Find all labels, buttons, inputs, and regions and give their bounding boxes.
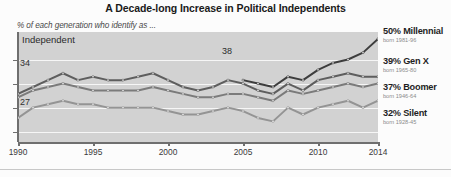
legend-item-silent: 32% Silent born 1928-45 bbox=[383, 108, 451, 125]
data-point bbox=[137, 107, 139, 109]
data-point bbox=[107, 107, 109, 109]
x-axis-label: 2000 bbox=[159, 147, 178, 157]
data-point bbox=[377, 76, 378, 78]
data-point bbox=[227, 107, 229, 109]
data-point bbox=[92, 76, 94, 78]
data-point bbox=[167, 79, 169, 81]
data-point bbox=[167, 110, 169, 112]
data-point bbox=[377, 100, 378, 102]
x-tick bbox=[168, 142, 170, 146]
data-point bbox=[32, 107, 34, 109]
data-point bbox=[317, 89, 319, 91]
data-point bbox=[167, 89, 169, 91]
data-point bbox=[197, 113, 199, 115]
data-point bbox=[18, 117, 19, 119]
data-point bbox=[317, 107, 319, 109]
data-point bbox=[317, 69, 319, 71]
data-point bbox=[47, 79, 49, 81]
data-point bbox=[152, 86, 154, 88]
data-point bbox=[62, 82, 64, 84]
data-point bbox=[137, 89, 139, 91]
data-point bbox=[257, 89, 259, 91]
data-point bbox=[302, 89, 304, 91]
data-point bbox=[122, 89, 124, 91]
footer-rule bbox=[0, 169, 451, 170]
legend-born-genx: born 1965-80 bbox=[383, 67, 451, 73]
chart-subtitle: % of each generation who identify as ... bbox=[17, 21, 156, 30]
data-point bbox=[122, 107, 124, 109]
data-point bbox=[362, 107, 364, 109]
data-point bbox=[212, 86, 214, 88]
data-point bbox=[92, 103, 94, 105]
legend-item-boomer: 37% Boomer born 1946-64 bbox=[383, 82, 451, 99]
annotation-independent: Independent bbox=[22, 34, 75, 45]
data-point bbox=[62, 72, 64, 74]
data-point bbox=[287, 107, 289, 109]
data-point bbox=[347, 82, 349, 84]
x-axis-label: 1995 bbox=[84, 147, 103, 157]
legend-label-boomer: 37% Boomer bbox=[383, 82, 451, 92]
data-point bbox=[287, 89, 289, 91]
data-point bbox=[77, 79, 79, 81]
data-point bbox=[362, 76, 364, 78]
data-point bbox=[77, 103, 79, 105]
legend-label-genx: 39% Gen X bbox=[383, 56, 451, 66]
data-point bbox=[272, 100, 274, 102]
x-axis-label: 1990 bbox=[9, 147, 28, 157]
data-point bbox=[302, 113, 304, 115]
data-point bbox=[152, 107, 154, 109]
data-point bbox=[377, 82, 378, 84]
data-point bbox=[47, 86, 49, 88]
data-point bbox=[32, 89, 34, 91]
data-point bbox=[332, 86, 334, 88]
x-tick bbox=[378, 142, 380, 146]
data-point bbox=[212, 96, 214, 98]
data-point bbox=[257, 96, 259, 98]
data-point bbox=[287, 82, 289, 84]
data-point bbox=[347, 100, 349, 102]
x-axis-label: 2005 bbox=[234, 147, 253, 157]
x-axis-line bbox=[18, 142, 379, 144]
x-tick bbox=[18, 142, 20, 146]
data-point bbox=[107, 89, 109, 91]
data-point bbox=[77, 86, 79, 88]
data-point bbox=[227, 93, 229, 95]
data-point bbox=[92, 89, 94, 91]
data-point bbox=[302, 93, 304, 95]
data-point bbox=[227, 79, 229, 81]
data-point bbox=[212, 110, 214, 112]
chart-title: A Decade-long Increase in Political Inde… bbox=[0, 2, 451, 14]
data-point bbox=[347, 58, 349, 60]
legend-label-silent: 32% Silent bbox=[383, 108, 451, 118]
x-axis-label: 2014 bbox=[369, 147, 388, 157]
legend-born-silent: born 1928-45 bbox=[383, 119, 451, 125]
x-tick bbox=[318, 142, 320, 146]
plot-area bbox=[18, 32, 378, 142]
data-point bbox=[302, 79, 304, 81]
annotation-27: 27 bbox=[20, 97, 30, 107]
data-point bbox=[18, 96, 19, 98]
data-point bbox=[347, 72, 349, 74]
data-point bbox=[317, 79, 319, 81]
x-tick bbox=[93, 142, 95, 146]
series-lines bbox=[18, 32, 378, 142]
data-point bbox=[242, 110, 244, 112]
data-point bbox=[182, 113, 184, 115]
data-point bbox=[122, 79, 124, 81]
data-point bbox=[332, 62, 334, 64]
data-point bbox=[32, 86, 34, 88]
data-point bbox=[137, 76, 139, 78]
data-point bbox=[182, 93, 184, 95]
data-point bbox=[152, 72, 154, 74]
data-point bbox=[107, 79, 109, 81]
data-point bbox=[272, 86, 274, 88]
data-point bbox=[332, 103, 334, 105]
data-point bbox=[18, 93, 19, 95]
data-point bbox=[182, 86, 184, 88]
legend-item-genx: 39% Gen X born 1965-80 bbox=[383, 56, 451, 73]
data-point bbox=[287, 76, 289, 78]
annotation-34: 34 bbox=[20, 58, 30, 68]
data-point bbox=[47, 103, 49, 105]
series-line-silent bbox=[18, 101, 378, 122]
data-point bbox=[362, 86, 364, 88]
